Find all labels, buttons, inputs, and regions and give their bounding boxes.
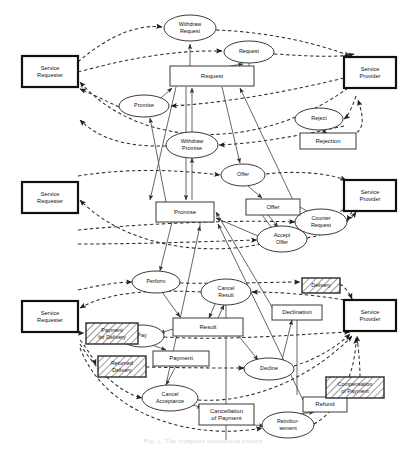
arc-reject-loop-prov [352,100,362,136]
h-returned-delivery-shape [98,356,146,377]
arc-counter-request-from-req [78,221,295,230]
p-withdraw-request-shape [164,15,216,41]
arc-offer-to-prov-mid [266,172,346,180]
t-request-shape [170,66,254,86]
arc-prov-to-reject [344,96,356,119]
h-compensation-of-payment-shape [326,377,384,398]
p-reject-shape [295,108,343,130]
p-request-shape [224,41,274,63]
p-cancel-acceptance-shape [142,385,198,411]
t-promise-shape [156,202,214,222]
req-top-shape [22,56,78,87]
arc-perform-to-result [162,292,180,317]
place-p-counter-request[interactable]: CounterRequest [295,209,347,235]
transition-t-cancellation[interactable]: Cancellationof Payment [199,404,254,425]
arc-promise-place-to-t-request [160,88,172,99]
p-offer-shape [221,164,265,186]
p-promise-shape [119,95,169,117]
arc-req-mid-to-offer [78,170,220,176]
t-rejection-shape [300,133,356,149]
place-p-withdraw-promise[interactable]: WithdrawPromise [166,132,218,158]
arc-offer-place-to-offer-trans [248,186,262,198]
arc-counter-request-to-t-request [240,88,300,215]
actor-prov-top[interactable]: ServiceProvider [344,57,396,88]
petri-net-canvas: WithdrawRequestRequestPromiseRejectWithd… [0,0,406,455]
place-p-cancel-result[interactable]: CancelResult [201,279,251,305]
t-payment-shape [153,351,209,366]
p-accept-offer-shape [257,226,307,252]
transition-t-offer[interactable]: Offer [246,199,300,215]
place-p-reject[interactable]: Reject [295,108,343,130]
arc-result-to-decline [238,335,258,360]
p-counter-request-shape [295,209,347,235]
transition-t-rejection[interactable]: Rejection [300,133,356,149]
place-p-accept-offer[interactable]: AcceptOffer [257,226,307,252]
t-result-shape [173,318,243,336]
arc-pay-to-payment [152,345,166,350]
place-p-promise[interactable]: Promise [119,95,169,117]
t-offer-shape [246,199,300,215]
p-decline-shape [244,358,294,380]
hatched-h-payment-for-delivery[interactable]: Paymentfor Delivery [86,323,138,344]
arc-prov-mid-to-counter-request [347,211,352,221]
transaction-pattern-diagram: WithdrawRequestRequestPromiseRejectWithd… [0,0,406,455]
transition-t-result[interactable]: Result [173,318,243,336]
transition-t-refund[interactable]: Refund [303,397,347,412]
actor-req-bot[interactable]: ServiceRequester [22,301,78,332]
prov-mid-shape [344,180,396,211]
actor-prov-mid[interactable]: ServiceProvider [344,180,396,211]
place-p-offer[interactable]: Offer [221,164,265,186]
arc-promise-place-to-req [80,89,119,107]
actor-req-top[interactable]: ServiceRequester [22,56,78,87]
t-declination-shape [272,305,322,320]
arc-returned-delivery-to-decline [146,367,244,368]
arc-delivery-to-prov-bot [340,284,352,299]
req-bot-shape [22,301,78,332]
arc-request-place-to-prov [274,54,354,56]
actor-prov-bot[interactable]: ServiceProvider [344,300,396,331]
hatched-h-returned-delivery[interactable]: ReturnedDelivery [98,356,146,377]
actor-req-mid[interactable]: ServiceRequester [22,182,78,213]
place-p-withdraw-request[interactable]: WithdrawRequest [164,15,216,41]
transition-t-request[interactable]: Request [170,66,254,86]
hatched-h-delivery[interactable]: Delivery [302,278,340,293]
place-p-decline[interactable]: Decline [244,358,294,380]
place-p-reimbursement[interactable]: Reimbur-sement [262,412,314,438]
p-perform-shape [132,271,180,293]
p-reimbursement-shape [262,412,314,438]
p-cancel-result-shape [201,279,251,305]
arc-compensation-to-prov-bot [357,336,360,377]
place-p-cancel-acceptance[interactable]: CancelAcceptance [142,385,198,411]
arc-cancel-result-to-result-up [209,304,215,318]
place-p-request[interactable]: Request [224,41,274,63]
figure-caption: Fig. 1. The complete transaction pattern [0,437,406,445]
arc-req-bot-to-perform [78,282,132,290]
arc-t-request-to-offer-place [222,87,240,163]
prov-bot-shape [344,300,396,331]
h-delivery-shape [302,278,340,293]
arc-promise-trans-to-perform [160,222,172,271]
arc-decline-to-declination [282,320,292,360]
t-cancellation-shape [199,404,254,425]
transition-t-promise[interactable]: Promise [156,202,214,222]
arc-payment-to-cancel-acceptance [166,366,176,385]
arc-result-to-cancel-result [218,305,224,318]
transition-t-declination[interactable]: Declination [272,305,322,320]
prov-top-shape [344,57,396,88]
req-mid-shape [22,182,78,213]
p-withdraw-promise-shape [166,132,218,158]
transition-t-payment[interactable]: Payment [153,351,209,366]
place-p-perform[interactable]: Perform [132,271,180,293]
h-payment-for-delivery-shape [86,323,138,344]
t-refund-shape [303,397,347,412]
hatched-h-compensation-of-payment[interactable]: Compensationof Payment [326,377,384,398]
